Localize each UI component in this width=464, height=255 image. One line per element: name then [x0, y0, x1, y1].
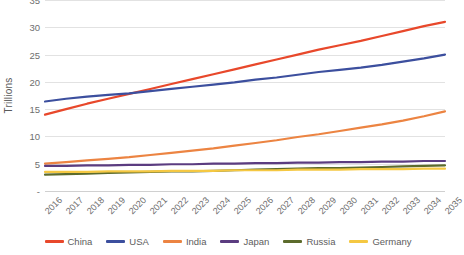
x-axis-tick-label: 2027 [274, 195, 295, 216]
y-axis-tick-label: 10 [29, 131, 40, 142]
x-axis-tick-label: 2033 [401, 195, 422, 216]
y-axis-title-label: Trillions [4, 77, 15, 113]
x-axis-tick-label: 2030 [338, 195, 359, 216]
legend-label: Japan [243, 236, 269, 247]
legend-swatch-china [45, 240, 64, 243]
x-axis-tick-label: 2018 [85, 195, 106, 216]
y-axis-tick-label: 25 [29, 49, 40, 60]
x-axis-tick-label: 2016 [43, 195, 64, 216]
x-axis-tick-label: 2024 [211, 195, 232, 216]
legend-swatch-india [163, 240, 182, 243]
x-axis-tick-label: 2031 [359, 195, 380, 216]
legend-item-usa[interactable]: USA [106, 236, 149, 247]
x-axis-tick-label: 2025 [232, 195, 253, 216]
series-lines [45, 0, 445, 191]
series-line-japan [45, 161, 445, 166]
series-line-china [45, 22, 445, 115]
chart-legend: ChinaUSAIndiaJapanRussiaGermany [0, 231, 456, 251]
x-axis-tick-label: 2020 [127, 195, 148, 216]
legend-label: USA [129, 236, 149, 247]
x-axis-tick-label: 2023 [190, 195, 211, 216]
legend-swatch-russia [283, 240, 302, 243]
legend-label: Germany [372, 236, 411, 247]
y-axis-title: Trillions [0, 0, 18, 190]
y-axis-tick-labels: -5101520253035 [18, 0, 42, 200]
x-axis-tick-label: 2019 [106, 195, 127, 216]
legend-item-germany[interactable]: Germany [349, 236, 411, 247]
legend-swatch-usa [106, 240, 125, 243]
x-axis-tick-label: 2021 [148, 195, 169, 216]
legend-swatch-japan [220, 240, 239, 243]
y-axis-tick-label: - [37, 186, 40, 197]
legend-label: India [186, 236, 207, 247]
legend-item-japan[interactable]: Japan [220, 236, 269, 247]
x-axis-tick-label: 2017 [64, 195, 85, 216]
legend-item-india[interactable]: India [163, 236, 207, 247]
x-axis-tick-label: 2035 [443, 195, 464, 216]
legend-label: Russia [306, 236, 335, 247]
x-axis-tick-label: 2026 [253, 195, 274, 216]
plot-area [45, 0, 445, 191]
y-axis-tick-label: 5 [35, 158, 40, 169]
legend-label: China [68, 236, 93, 247]
x-axis-tick-label: 2022 [169, 195, 190, 216]
x-axis-tick-label: 2028 [295, 195, 316, 216]
y-axis-tick-label: 15 [29, 104, 40, 115]
x-axis-tick-label: 2029 [317, 195, 338, 216]
y-axis-tick-label: 20 [29, 76, 40, 87]
legend-item-russia[interactable]: Russia [283, 236, 335, 247]
series-line-usa [45, 55, 445, 102]
legend-swatch-germany [349, 240, 368, 243]
y-axis-tick-label: 35 [29, 0, 40, 6]
legend-item-china[interactable]: China [45, 236, 93, 247]
x-axis-tick-label: 2032 [380, 195, 401, 216]
y-axis-tick-label: 30 [29, 22, 40, 33]
x-axis-tick-labels: 2016201720182019202020212022202320242025… [45, 191, 445, 229]
series-line-india [45, 111, 445, 163]
x-axis-tick-label: 2034 [422, 195, 443, 216]
